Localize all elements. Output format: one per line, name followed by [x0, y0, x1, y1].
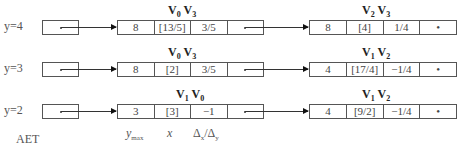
- node-title: V0 V3: [168, 3, 196, 19]
- aet-label: AET: [16, 132, 39, 147]
- field-label-ymax: ymax: [126, 126, 143, 142]
- edge-node: 8 [2] 3/5: [117, 62, 264, 77]
- cell-slope: −1: [191, 105, 228, 118]
- arrow-icon: [245, 27, 308, 28]
- node-title: V2 V3: [362, 3, 390, 19]
- cell-next-null: •: [420, 105, 456, 118]
- edge-node: 4 [9/2] −1/4 •: [309, 104, 457, 119]
- row-label: y=3: [4, 61, 23, 76]
- edge-node: 3 [3] −1: [117, 104, 264, 119]
- arrow-icon: [61, 27, 116, 28]
- cell-ymax: 3: [118, 105, 155, 118]
- row-label: y=4: [4, 19, 23, 34]
- arrow-icon: [61, 69, 116, 70]
- cell-ymax: 8: [118, 21, 155, 34]
- cell-x: [13/5]: [155, 21, 192, 34]
- cell-slope: −1/4: [384, 63, 421, 76]
- node-title: V1 V0: [176, 87, 204, 103]
- arrow-icon: [245, 111, 308, 112]
- cell-x: [17/4]: [347, 63, 384, 76]
- cell-x: [4]: [347, 21, 384, 34]
- field-label-slope: Δx/Δy: [193, 126, 219, 142]
- cell-next-null: •: [420, 21, 456, 34]
- cell-ymax: 4: [310, 105, 347, 118]
- aet-row-y3: y=3 V0 V3 8 [2] 3/5 V1 V2 4 [17/4] −1/4 …: [0, 42, 463, 82]
- node-title: V0 V3: [168, 45, 196, 61]
- cell-slope: −1/4: [384, 105, 421, 118]
- aet-row-y4: y=4 V0 V3 8 [13/5] 3/5 V2 V3 8 [4] 1/4 •: [0, 0, 463, 40]
- cell-ymax: 8: [118, 63, 155, 76]
- edge-node: 4 [17/4] −1/4 •: [309, 62, 457, 77]
- cell-x: [9/2]: [347, 105, 384, 118]
- field-label-x: x: [167, 126, 172, 141]
- cell-next-null: •: [420, 63, 456, 76]
- cell-ymax: 8: [310, 21, 347, 34]
- edge-node: 8 [4] 1/4 •: [309, 20, 457, 35]
- row-label: y=2: [4, 103, 23, 118]
- arrow-icon: [245, 69, 308, 70]
- cell-ymax: 4: [310, 63, 347, 76]
- node-title: V1 V2: [362, 45, 390, 61]
- cell-x: [3]: [155, 105, 192, 118]
- cell-slope: 3/5: [191, 63, 228, 76]
- cell-slope: 1/4: [384, 21, 421, 34]
- aet-row-y2: y=2 V1 V0 3 [3] −1 V1 V2 4 [9/2] −1/4 •: [0, 84, 463, 124]
- edge-node: 8 [13/5] 3/5: [117, 20, 264, 35]
- cell-x: [2]: [155, 63, 192, 76]
- arrow-icon: [61, 111, 116, 112]
- cell-slope: 3/5: [191, 21, 228, 34]
- node-title: V1 V2: [362, 87, 390, 103]
